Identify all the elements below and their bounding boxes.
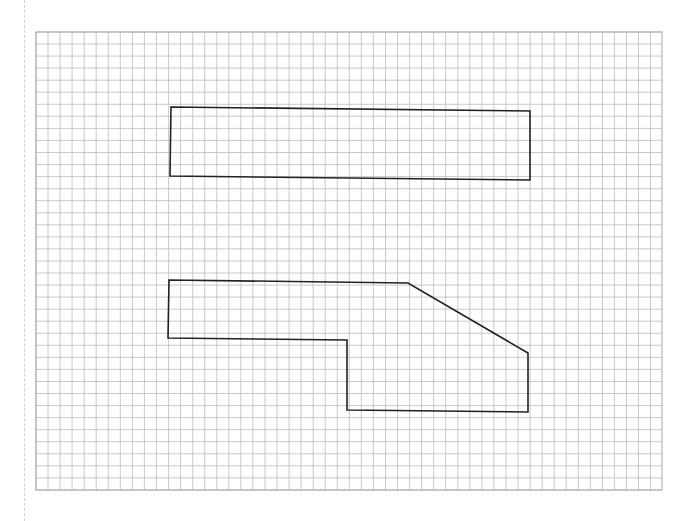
composite-polygon-shape: [168, 280, 528, 412]
graph-paper-canvas: [0, 0, 695, 521]
grid: [36, 32, 662, 490]
rectangle-shape: [170, 107, 530, 180]
